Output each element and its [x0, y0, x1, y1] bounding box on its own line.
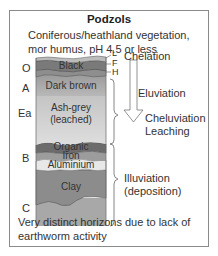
horizon-b: B	[22, 152, 29, 164]
illuviation-brace	[110, 144, 118, 226]
process-cheluviation: Cheluviation	[145, 112, 206, 125]
sub-horizon-l: L	[112, 48, 117, 58]
label-clay: Clay	[61, 181, 81, 192]
footer-line-1: Very distinct horizons due to lack of	[18, 215, 208, 229]
horizon-ea: Ea	[18, 107, 31, 119]
label-leached: (leached)	[50, 114, 92, 125]
process-leaching: Leaching	[145, 125, 190, 138]
label-dark-brown: Dark brown	[45, 80, 96, 91]
footer-line-2: earthworm activity	[18, 229, 208, 243]
eluviation-brace	[110, 79, 118, 144]
label-black: Black	[59, 60, 84, 71]
process-illuviation: Illuviation	[124, 172, 170, 185]
horizon-c: C	[22, 202, 30, 214]
process-deposition: (deposition)	[124, 185, 181, 198]
footer-note: Very distinct horizons due to lack of ea…	[18, 215, 208, 243]
process-eluviation: Eluviation	[138, 87, 186, 100]
process-chelation: Chelation	[124, 50, 170, 63]
label-ash-grey: Ash-grey	[51, 102, 91, 113]
horizon-a: A	[22, 82, 29, 94]
sub-horizon-h: H	[112, 67, 119, 77]
label-aluminium: Aluminium	[48, 159, 95, 170]
horizon-o: O	[22, 62, 31, 74]
